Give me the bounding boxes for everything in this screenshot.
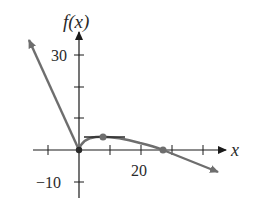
curve-right-branch <box>79 137 218 172</box>
point-local-max <box>100 134 107 141</box>
y-tick-label-30: 30 <box>51 47 67 64</box>
x-axis-label: x <box>230 140 239 160</box>
point-origin <box>76 147 82 153</box>
y-tick-label-neg10: −10 <box>36 174 61 191</box>
function-graph: f(x) x 30 20 −10 <box>0 0 255 216</box>
x-tick-label-20: 20 <box>131 162 147 179</box>
point-x-intercept <box>160 147 167 154</box>
y-axis-label: f(x) <box>63 11 89 33</box>
